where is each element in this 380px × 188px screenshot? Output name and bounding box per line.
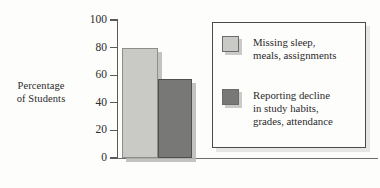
bar-1[interactable] [158,79,192,158]
y-tick-label: 60 [73,69,107,81]
y-tick-mark [110,75,117,76]
y-tick-label-row: 40 [60,97,107,109]
legend-item-1[interactable]: Reporting decline in study habits, grade… [222,89,333,129]
legend-label-0: Missing sleep, meals, assignments [244,36,336,62]
y-axis-line [117,19,118,159]
legend-swatch-light [222,36,244,56]
y-tick-label-row: 80 [60,42,107,54]
legend-swatch-fill [222,36,239,52]
y-tick-label: 80 [73,42,107,54]
y-tick-mark [110,47,117,48]
y-tick-mark [110,19,117,20]
legend: Missing sleep, meals, assignments Report… [212,22,366,148]
y-tick-label: 20 [73,124,107,136]
y-tick-mark [110,130,117,131]
y-tick-label-row: 20 [60,124,107,136]
y-axis-title-line-1: Percentage [2,80,80,93]
y-tick-label: 100 [73,14,107,26]
y-tick-label-row: 0 [60,152,107,164]
legend-swatch-dark [222,89,244,109]
legend-label-1: Reporting decline in study habits, grade… [244,89,333,129]
y-tick-mark [110,102,117,103]
bar-chart: Percentage of Students 100806040200 Miss… [0,0,380,188]
legend-item-0[interactable]: Missing sleep, meals, assignments [222,36,336,62]
bar-0[interactable] [122,48,158,158]
y-tick-label: 0 [73,152,107,164]
y-tick-label-row: 60 [60,69,107,81]
y-tick-label: 40 [73,97,107,109]
y-tick-mark [110,157,117,158]
y-tick-label-row: 100 [60,14,107,26]
legend-swatch-fill [222,89,239,105]
